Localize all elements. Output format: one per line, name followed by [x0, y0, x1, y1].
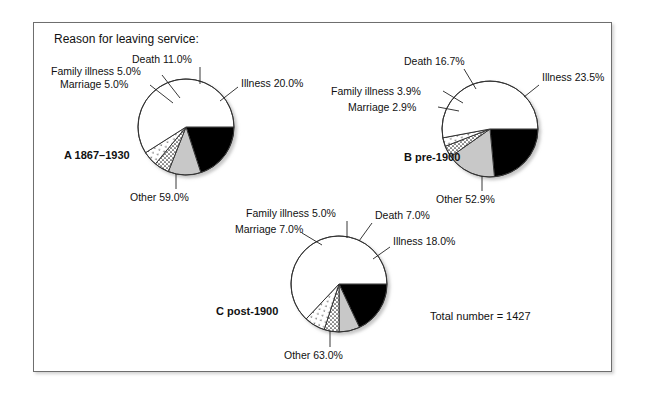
label-c-death: Death 7.0%: [375, 209, 430, 221]
figure-frame: Reason for leaving service: Death 11.0% …: [33, 22, 612, 372]
total-number-label: Total number = 1427: [430, 310, 531, 322]
label-a-death: Death 11.0%: [132, 53, 192, 65]
pie-chart-a: Death 11.0% Family illness 5.0% Marriage…: [51, 53, 303, 203]
pie-chart-b: Death 16.7% Family illness 3.9% Marriage…: [331, 55, 604, 205]
label-a-marriage: Marriage 5.0%: [60, 78, 128, 90]
label-b-illness: Illness 23.5%: [542, 71, 604, 83]
figure-heading: Reason for leaving service:: [54, 32, 199, 46]
label-a-illness: Illness 20.0%: [241, 77, 303, 89]
label-a-other: Other 59.0%: [130, 191, 189, 203]
label-b-other: Other 52.9%: [436, 193, 495, 205]
label-b-death: Death 16.7%: [404, 55, 465, 67]
label-b-marriage: Marriage 2.9%: [348, 101, 416, 113]
label-b-family-illness: Family illness 3.9%: [331, 85, 421, 97]
pie-chart-c: Family illness 5.0% Death 7.0% Marriage …: [216, 207, 455, 361]
pie-chart-figure: Reason for leaving service: Death 11.0% …: [34, 23, 611, 371]
label-c-other: Other 63.0%: [284, 349, 343, 361]
label-c-marriage: Marriage 7.0%: [235, 223, 303, 235]
panel-title-b: B pre-1900: [404, 151, 460, 163]
label-a-family-illness: Family illness 5.0%: [51, 65, 141, 77]
leader-b-illness: [524, 85, 539, 97]
panel-title-a: A 1867–1930: [64, 149, 130, 161]
pie-c-slices: [291, 236, 387, 332]
slice-b-illness[interactable]: [490, 129, 538, 177]
label-c-illness: Illness 18.0%: [393, 235, 455, 247]
slice-b-other[interactable]: [442, 81, 538, 138]
panel-title-c: C post-1900: [216, 305, 278, 317]
pie-a-slices: [138, 79, 234, 175]
leader-a-illness: [220, 87, 238, 101]
leader-c-death: [359, 223, 372, 241]
label-c-family-illness: Family illness 5.0%: [246, 207, 336, 219]
leader-c-marriage: [302, 233, 322, 245]
